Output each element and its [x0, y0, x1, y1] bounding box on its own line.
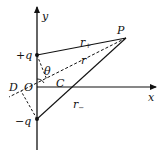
- negative-charge-dot: [35, 117, 39, 121]
- x-axis-label: x: [148, 91, 155, 104]
- r-plus-label: r+: [80, 36, 91, 50]
- point-p-label: P: [116, 24, 125, 37]
- negative-charge-label: −q: [15, 115, 31, 128]
- positive-charge-dot: [35, 53, 39, 57]
- theta-label: θ: [44, 65, 51, 78]
- dipole-diagram: y x P O C D +q −q θ r r+ r−: [0, 0, 162, 155]
- origin-label: O: [24, 81, 33, 94]
- y-axis-label: y: [41, 10, 49, 23]
- r-label: r: [81, 54, 87, 67]
- positive-charge-label: +q: [16, 49, 32, 62]
- point-d-label: D: [8, 81, 18, 94]
- r-minus-label: r−: [73, 98, 84, 112]
- point-c-label: C: [56, 77, 65, 90]
